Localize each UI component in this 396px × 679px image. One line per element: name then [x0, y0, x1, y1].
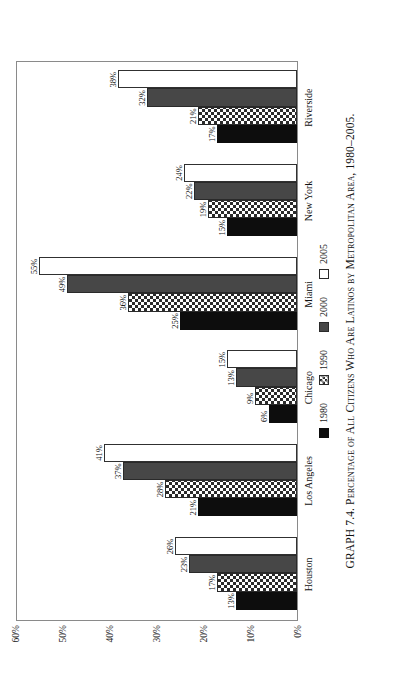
- bar-value-label: 21%: [188, 500, 198, 516]
- legend-item-1980: 1980: [318, 403, 329, 438]
- bar-riverside-1990: [198, 107, 297, 125]
- bar-los-angeles-1980: [198, 498, 297, 516]
- black-solid-swatch: [319, 428, 329, 438]
- bar-value-label: 37%: [113, 463, 123, 479]
- category-label-riverside: Riverside: [303, 89, 314, 127]
- bar-value-label: 23%: [179, 557, 189, 573]
- bar-riverside-2005: [118, 70, 297, 88]
- bar-miami-2000: [67, 275, 297, 293]
- bar-miami-1980: [180, 312, 298, 330]
- bar-value-label: 17%: [207, 575, 217, 591]
- bar-value-label: 15%: [217, 220, 227, 236]
- bar-value-label: 25%: [170, 313, 180, 329]
- figure-caption: GRAPH 7.4. Percentage of All Citizens Wh…: [344, 61, 356, 621]
- bar-chicago-2005: [227, 350, 298, 368]
- bar-miami-2005: [39, 257, 298, 275]
- bar-value-label: 26%: [165, 539, 175, 555]
- y-axis-tick-40: 40%: [105, 625, 115, 679]
- figure-page: 0%10%20%30%40%50%60% 13%17%23%26%21%28%3…: [0, 0, 396, 679]
- bar-los-angeles-2000: [123, 462, 297, 480]
- bar-value-label: 21%: [188, 108, 198, 124]
- bar-miami-1990: [128, 293, 297, 311]
- bar-los-angeles-1990: [165, 480, 297, 498]
- bar-value-label: 15%: [217, 352, 227, 368]
- bar-value-label: 19%: [198, 202, 208, 218]
- y-axis-tick-20: 20%: [199, 625, 209, 679]
- legend-label: 2000: [318, 297, 329, 317]
- bar-value-label: 24%: [174, 165, 184, 181]
- bar-chicago-1980: [269, 405, 297, 423]
- category-label-chicago: Chicago: [303, 371, 314, 404]
- legend-item-2005: 2005: [318, 244, 329, 279]
- bar-new-york-1990: [208, 200, 297, 218]
- bar-value-label: 9%: [245, 393, 255, 404]
- bar-value-label: 6%: [259, 411, 269, 422]
- legend-item-2000: 2000: [318, 297, 329, 332]
- bar-new-york-2005: [184, 164, 297, 182]
- legend-label: 1980: [318, 403, 329, 423]
- bar-riverside-1980: [217, 125, 297, 143]
- category-label-new-york: New York: [303, 181, 314, 222]
- bar-value-label: 22%: [184, 183, 194, 199]
- bar-chicago-2000: [236, 368, 297, 386]
- bar-houston-2000: [189, 555, 297, 573]
- bar-value-label: 17%: [207, 126, 217, 142]
- bar-value-label: 41%: [94, 445, 104, 461]
- bar-houston-1980: [236, 592, 297, 610]
- bar-chicago-1990: [255, 387, 297, 405]
- bar-value-label: 55%: [29, 259, 39, 275]
- y-axis-tick-0: 0%: [293, 625, 303, 679]
- y-axis-tick-50: 50%: [58, 625, 68, 679]
- category-label-los-angeles: Los Angeles: [303, 456, 314, 506]
- bar-value-label: 38%: [108, 72, 118, 88]
- bar-houston-1990: [217, 573, 297, 591]
- rotated-figure: 0%10%20%30%40%50%60% 13%17%23%26%21%28%3…: [0, 0, 396, 679]
- legend-label: 2005: [318, 244, 329, 264]
- legend-item-1990: 1990: [318, 350, 329, 385]
- white-outline-swatch: [319, 269, 329, 279]
- y-axis-tick-10: 10%: [246, 625, 256, 679]
- category-label-houston: Houston: [303, 557, 314, 591]
- bar-value-label: 36%: [118, 295, 128, 311]
- bar-value-label: 32%: [137, 90, 147, 106]
- bar-new-york-1980: [227, 218, 298, 236]
- y-axis-tick-30: 30%: [152, 625, 162, 679]
- bar-new-york-2000: [194, 182, 297, 200]
- legend-label: 1990: [318, 350, 329, 370]
- plot-area: 13%17%23%26%21%28%37%41%6%9%13%15%25%36%…: [16, 61, 298, 621]
- bar-houston-2005: [175, 537, 297, 555]
- chart-legend: 1980199020002005: [318, 61, 329, 621]
- bar-value-label: 13%: [226, 593, 236, 609]
- bar-value-label: 13%: [226, 370, 236, 386]
- y-axis-tick-60: 60%: [11, 625, 21, 679]
- bar-los-angeles-2005: [104, 444, 297, 462]
- bar-value-label: 28%: [155, 482, 165, 498]
- bar-riverside-2000: [147, 88, 297, 106]
- dark-gray-swatch: [319, 322, 329, 332]
- category-label-miami: Miami: [303, 281, 314, 308]
- checkered-swatch: [319, 375, 329, 385]
- bar-value-label: 49%: [57, 277, 67, 293]
